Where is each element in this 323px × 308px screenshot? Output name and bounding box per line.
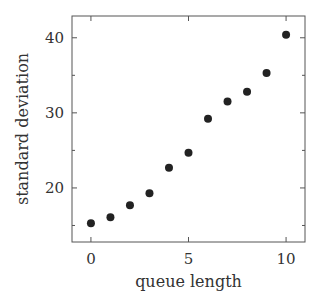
x-axis-ticks: 0510 xyxy=(86,16,295,268)
y-axis-label: standard deviation xyxy=(13,53,32,205)
data-point xyxy=(224,98,232,106)
data-point xyxy=(243,88,251,96)
plot-area-frame xyxy=(72,16,305,242)
data-point xyxy=(165,164,173,172)
x-tick-label: 0 xyxy=(86,250,96,268)
scatter-plot: 0510 203040 queue length standard deviat… xyxy=(0,0,323,308)
x-tick-label: 5 xyxy=(184,250,194,268)
x-tick-label: 10 xyxy=(277,250,296,268)
data-points xyxy=(87,31,290,227)
data-point xyxy=(87,219,95,227)
data-point xyxy=(106,213,114,221)
data-point xyxy=(145,189,153,197)
data-point xyxy=(204,115,212,123)
x-axis-label: queue length xyxy=(135,272,242,291)
data-point xyxy=(263,69,271,77)
y-axis-ticks: 203040 xyxy=(45,29,305,226)
data-point xyxy=(282,31,290,39)
y-tick-label: 40 xyxy=(45,29,64,47)
y-tick-label: 20 xyxy=(45,179,64,197)
data-point xyxy=(185,149,193,157)
data-point xyxy=(126,201,134,209)
y-tick-label: 30 xyxy=(45,104,64,122)
